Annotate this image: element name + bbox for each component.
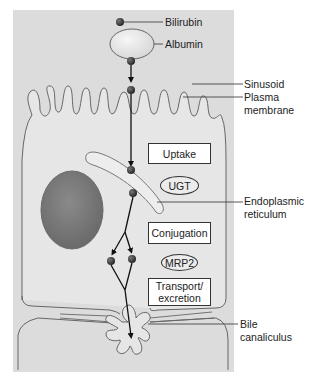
transporter-mrp2-label: MRP2 bbox=[165, 257, 194, 269]
label-bile-1: Bile bbox=[240, 318, 258, 330]
step-uptake: Uptake bbox=[148, 143, 211, 164]
conjugate-b bbox=[128, 255, 136, 263]
label-albumin: Albumin bbox=[165, 38, 203, 50]
albumin bbox=[110, 29, 154, 59]
enzyme-ugt-label: UGT bbox=[168, 180, 190, 192]
label-plasma-membrane-2: membrane bbox=[244, 104, 294, 116]
label-bilirubin: Bilirubin bbox=[165, 16, 202, 28]
label-er-1: Endoplasmic bbox=[244, 195, 304, 207]
label-er-2: reticulum bbox=[244, 208, 287, 220]
bilirubin-free bbox=[127, 57, 135, 65]
bilirubin-molecule bbox=[116, 18, 124, 26]
label-sinusoid: Sinusoid bbox=[244, 78, 284, 90]
label-plasma-membrane-1: Plasma bbox=[244, 91, 279, 103]
step-conjugation-label: Conjugation bbox=[151, 227, 207, 239]
step-transport-excretion: Transport/ excretion bbox=[148, 278, 211, 306]
step-conjugation: Conjugation bbox=[148, 222, 211, 244]
step-transport-label-2: excretion bbox=[158, 292, 201, 304]
bilirubin-conjugated bbox=[129, 189, 137, 197]
label-bile-2: canaliculus bbox=[240, 331, 292, 343]
transporter-mrp2: MRP2 bbox=[161, 254, 198, 271]
conjugate-a bbox=[107, 257, 115, 265]
bilirubin-er-entry bbox=[127, 166, 135, 174]
enzyme-ugt: UGT bbox=[160, 176, 199, 195]
bilirubin-membrane bbox=[127, 86, 135, 94]
nucleus bbox=[41, 171, 103, 249]
bilirubin-metabolism-diagram bbox=[0, 0, 312, 382]
step-transport-label-1: Transport/ bbox=[156, 280, 203, 292]
step-uptake-label: Uptake bbox=[163, 148, 196, 160]
